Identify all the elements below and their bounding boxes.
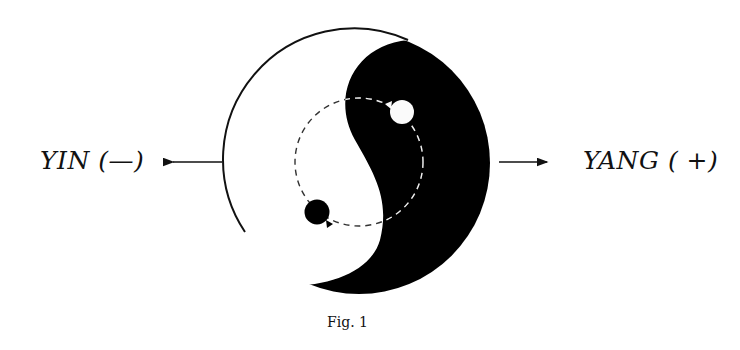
- yin-yang-figure: [0, 0, 740, 350]
- yin-seed-dot: [390, 100, 414, 124]
- yang-seed-dot: [305, 200, 330, 225]
- figure-caption: Fig. 1: [327, 314, 368, 330]
